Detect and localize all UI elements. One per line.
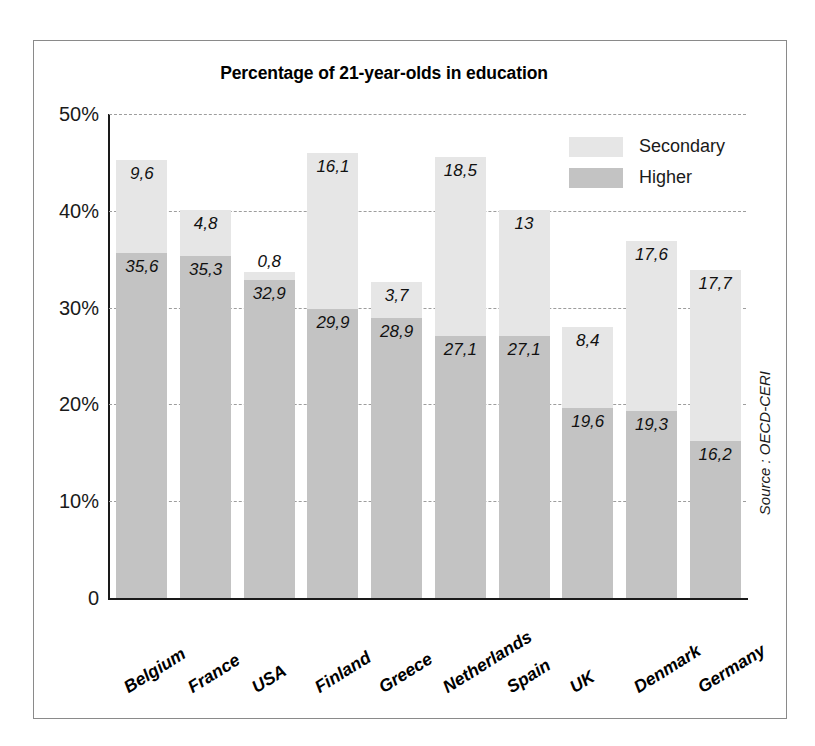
bar-segment-secondary[interactable]: 3,7 [371, 282, 422, 318]
bar-segment-secondary[interactable]: 8,4 [562, 327, 613, 408]
bar-value-label: 3,7 [371, 286, 422, 306]
y-axis-tick-label: 0 [0, 587, 99, 610]
y-axis-line [108, 114, 110, 599]
bar-segment-secondary[interactable]: 4,8 [180, 210, 231, 256]
bar-segment-higher[interactable]: 28,9 [371, 318, 422, 598]
bar-segment-secondary[interactable]: 9,6 [116, 160, 167, 253]
bar-segment-higher[interactable]: 19,6 [562, 408, 613, 598]
y-axis-tick-label: 50% [0, 103, 99, 126]
x-axis-tick-label: UK [566, 667, 599, 698]
bar-segment-secondary[interactable]: 18,5 [435, 157, 486, 336]
x-axis-tick-label: Denmark [630, 640, 705, 698]
gridline [109, 114, 746, 115]
bar-value-label: 13 [499, 214, 550, 234]
chart-frame: Percentage of 21-year-olds in education … [33, 40, 787, 719]
bar-value-label: 29,9 [307, 313, 358, 333]
bar-group[interactable]: 9,635,6 [116, 160, 167, 598]
bar-segment-higher[interactable]: 35,3 [180, 256, 231, 598]
bar-value-label: 4,8 [180, 214, 231, 234]
y-axis-tick-label: 30% [0, 296, 99, 319]
bar-value-label: 17,6 [626, 245, 677, 265]
bar-group[interactable]: 3,728,9 [371, 282, 422, 598]
legend-swatch [569, 137, 623, 157]
bar-group[interactable]: 1327,1 [499, 210, 550, 598]
bar-segment-higher[interactable]: 19,3 [626, 411, 677, 598]
source-note: Source : OECD-CERI [756, 371, 773, 515]
bar-value-label: 27,1 [435, 340, 486, 360]
bar-segment-secondary[interactable]: 17,7 [690, 270, 741, 441]
bar-segment-secondary[interactable]: 0,8 [244, 272, 295, 280]
y-axis-tick-label: 10% [0, 490, 99, 513]
y-axis-tick-label: 40% [0, 199, 99, 222]
bar-value-label: 35,6 [116, 257, 167, 277]
bar-segment-higher[interactable]: 29,9 [307, 309, 358, 598]
legend-label: Secondary [639, 136, 725, 157]
bar-value-label: 19,3 [626, 415, 677, 435]
legend-item[interactable]: Higher [569, 162, 725, 193]
bar-group[interactable]: 16,129,9 [307, 153, 358, 598]
bar-group[interactable]: 17,619,3 [626, 241, 677, 598]
bar-segment-higher[interactable]: 16,2 [690, 441, 741, 598]
bar-group[interactable]: 18,527,1 [435, 157, 486, 598]
chart-legend: SecondaryHigher [569, 131, 725, 193]
bar-group[interactable]: 8,419,6 [562, 327, 613, 598]
bar-value-label: 27,1 [499, 340, 550, 360]
x-axis-tick-label: USA [248, 660, 290, 697]
bar-value-label: 9,6 [116, 164, 167, 184]
bar-segment-secondary[interactable]: 16,1 [307, 153, 358, 309]
bar-value-label: 18,5 [435, 161, 486, 181]
bar-value-label: 19,6 [562, 412, 613, 432]
bar-segment-higher[interactable]: 27,1 [435, 336, 486, 598]
legend-label: Higher [639, 167, 692, 188]
bar-group[interactable]: 17,716,2 [690, 270, 741, 598]
x-axis-tick-label: Finland [311, 647, 375, 698]
bar-value-label: 35,3 [180, 260, 231, 280]
bar-group[interactable]: 4,835,3 [180, 210, 231, 598]
bar-value-label: 16,2 [690, 445, 741, 465]
bar-segment-secondary[interactable]: 13 [499, 210, 550, 336]
x-axis-tick-label: Belgium [120, 643, 190, 697]
bar-group[interactable]: 0,832,9 [244, 272, 295, 598]
bar-value-label: 32,9 [244, 284, 295, 304]
bar-value-label: 8,4 [562, 331, 613, 351]
chart-title: Percentage of 21-year-olds in education [34, 63, 734, 84]
bar-segment-higher[interactable]: 35,6 [116, 253, 167, 598]
bar-value-label: 17,7 [690, 274, 741, 294]
bar-value-label: 16,1 [307, 157, 358, 177]
bar-value-label: 0,8 [244, 252, 295, 272]
bar-value-label: 28,9 [371, 322, 422, 342]
x-axis-tick-label: Germany [694, 640, 769, 698]
bar-segment-higher[interactable]: 27,1 [499, 336, 550, 598]
x-axis-tick-label: France [184, 650, 244, 698]
y-axis-tick-label: 20% [0, 393, 99, 416]
bar-segment-higher[interactable]: 32,9 [244, 280, 295, 598]
legend-swatch [569, 168, 623, 188]
x-axis-tick-label: Spain [503, 655, 555, 698]
legend-item[interactable]: Secondary [569, 131, 725, 162]
bar-segment-secondary[interactable]: 17,6 [626, 241, 677, 411]
x-axis-tick-label: Greece [375, 649, 436, 698]
